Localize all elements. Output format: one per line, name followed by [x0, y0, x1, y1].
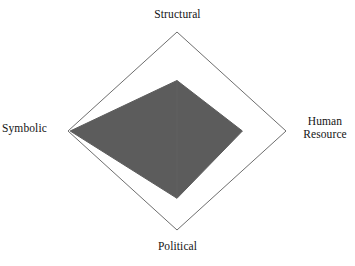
axis-label-symbolic: Symbolic [2, 122, 64, 135]
radar-chart: Structural Human Resource Political Symb… [0, 0, 355, 266]
data-series-polygon [70, 81, 242, 199]
axis-label-human-resource: Human Resource [296, 115, 354, 141]
axis-label-political: Political [0, 240, 355, 253]
axis-label-structural: Structural [0, 8, 355, 21]
